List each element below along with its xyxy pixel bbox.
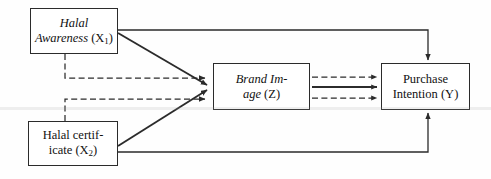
node-halal-certificate: Halal certif- icate (X2) bbox=[28, 121, 118, 166]
node-brand-image: Brand Im- age (Z) bbox=[213, 63, 310, 110]
node-halal-certificate-label: Halal certif- icate (X2) bbox=[41, 128, 106, 158]
node-brand-image-label: Brand Im- age (Z) bbox=[234, 72, 290, 102]
edge-x1-to-brand-image bbox=[118, 33, 207, 85]
node-purchase-intention-label: Purchase Intention (Y) bbox=[391, 72, 461, 102]
path-model-diagram: Halal Awareness (X1) Brand Im- age (Z) P… bbox=[0, 0, 491, 179]
node-halal-awareness: Halal Awareness (X1) bbox=[30, 8, 118, 54]
edge-x2-to-purchase-intention bbox=[118, 113, 428, 152]
edge-x2-to-brand-image-indirect bbox=[65, 99, 205, 121]
edge-x1-to-brand-image-indirect bbox=[65, 54, 205, 78]
node-purchase-intention: Purchase Intention (Y) bbox=[381, 63, 470, 110]
edge-x1-to-purchase-intention bbox=[118, 30, 428, 60]
node-halal-awareness-label: Halal Awareness (X1) bbox=[33, 16, 115, 46]
